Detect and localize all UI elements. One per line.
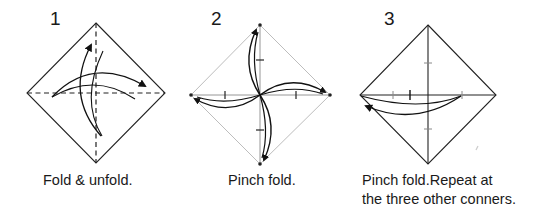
step-2-diagram [189,23,332,166]
pinch-arrow-out [361,96,461,104]
step-3-number: 3 [384,9,395,28]
step-1-diagram [27,23,165,163]
step-1-caption: Fold & unfold. [43,171,132,190]
fold-arrow-up [80,45,101,136]
step-3-caption-line-1: Pinch fold.Repeat at [362,171,493,190]
step-3-caption-line-2: the three other conners. [362,190,516,209]
step-3-diagram [360,25,496,164]
step-2-caption: Pinch fold. [228,171,296,190]
step-1-number: 1 [50,9,61,28]
step-2-number: 2 [211,9,222,28]
pinch-arrow-back [366,96,461,114]
unfold-arrow-left [52,85,135,99]
origami-diagram: 1 2 3 Fold & unfold. Pinch fold. Pinch f… [0,0,545,215]
